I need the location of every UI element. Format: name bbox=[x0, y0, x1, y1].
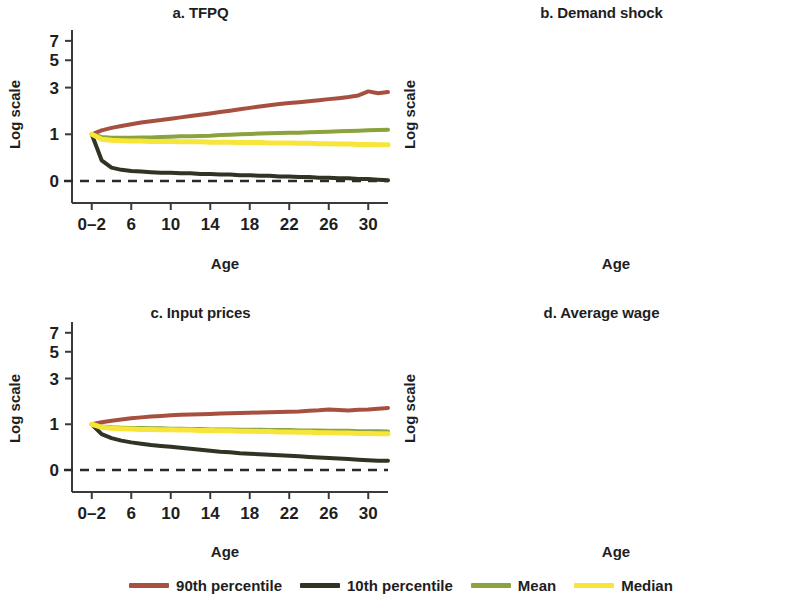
legend-swatch-icon bbox=[471, 583, 511, 588]
legend-swatch-icon bbox=[300, 583, 340, 588]
panel-b-xlabel: Age bbox=[451, 255, 781, 272]
x-tick-label: 14 bbox=[201, 504, 220, 523]
x-tick-label: 26 bbox=[319, 215, 338, 234]
y-tick-label: 1 bbox=[50, 125, 59, 144]
panel-grid: a. TFPQ Log scale Age 013570–26101418222… bbox=[0, 0, 802, 568]
panel-d-plot: 013570–26101418222630 bbox=[401, 300, 802, 540]
y-tick-label: 3 bbox=[50, 370, 59, 389]
panel-b-plot: 013570–26101418222630 bbox=[401, 0, 802, 250]
legend-label: Median bbox=[621, 577, 673, 594]
y-tick-label: 7 bbox=[50, 324, 59, 343]
x-tick-label: 0–2 bbox=[78, 504, 106, 523]
x-tick-label: 18 bbox=[240, 504, 259, 523]
legend-item-mean: Mean bbox=[471, 577, 556, 594]
x-tick-label: 26 bbox=[319, 504, 338, 523]
y-tick-label: 5 bbox=[50, 51, 59, 70]
x-tick-label: 10 bbox=[161, 504, 180, 523]
x-tick-label: 22 bbox=[280, 215, 299, 234]
y-tick-label: 3 bbox=[50, 79, 59, 98]
series-line bbox=[92, 408, 388, 424]
series-line bbox=[92, 130, 388, 138]
x-tick-label: 6 bbox=[127, 215, 136, 234]
chart-legend: 90th percentile10th percentileMeanMedian bbox=[0, 568, 802, 603]
panel-a-tfpq: a. TFPQ Log scale Age 013570–26101418222… bbox=[0, 0, 401, 300]
x-tick-label: 6 bbox=[127, 504, 136, 523]
legend-item-median: Median bbox=[574, 577, 673, 594]
panel-d-average-wage: d. Average wage Log scale Age 013570–261… bbox=[401, 300, 802, 568]
x-tick-label: 10 bbox=[161, 215, 180, 234]
legend-label: 90th percentile bbox=[176, 577, 282, 594]
panel-c-xlabel: Age bbox=[60, 543, 390, 560]
series-line bbox=[92, 91, 388, 134]
legend-swatch-icon bbox=[574, 583, 614, 588]
x-tick-label: 0–2 bbox=[78, 215, 106, 234]
x-tick-label: 18 bbox=[240, 215, 259, 234]
panel-c-input-prices: c. Input prices Log scale Age 013570–261… bbox=[0, 300, 401, 568]
x-tick-label: 30 bbox=[359, 215, 378, 234]
legend-label: 10th percentile bbox=[347, 577, 453, 594]
y-tick-label: 0 bbox=[50, 172, 59, 191]
y-tick-label: 1 bbox=[50, 415, 59, 434]
legend-item-10th-percentile: 10th percentile bbox=[300, 577, 453, 594]
legend-label: Mean bbox=[518, 577, 556, 594]
y-tick-label: 0 bbox=[50, 461, 59, 480]
x-tick-label: 22 bbox=[280, 504, 299, 523]
x-tick-label: 30 bbox=[359, 504, 378, 523]
x-tick-label: 14 bbox=[201, 215, 220, 234]
y-tick-label: 5 bbox=[50, 343, 59, 362]
panel-d-xlabel: Age bbox=[451, 543, 781, 560]
panel-c-plot: 013570–26101418222630 bbox=[0, 300, 401, 540]
panel-b-demand-shock: b. Demand shock Log scale Age 013570–261… bbox=[401, 0, 802, 300]
y-tick-label: 7 bbox=[50, 32, 59, 51]
legend-swatch-icon bbox=[129, 583, 169, 588]
panel-a-xlabel: Age bbox=[60, 255, 390, 272]
figure-container: a. TFPQ Log scale Age 013570–26101418222… bbox=[0, 0, 802, 603]
panel-a-plot: 013570–26101418222630 bbox=[0, 0, 401, 250]
legend-item-90th-percentile: 90th percentile bbox=[129, 577, 282, 594]
